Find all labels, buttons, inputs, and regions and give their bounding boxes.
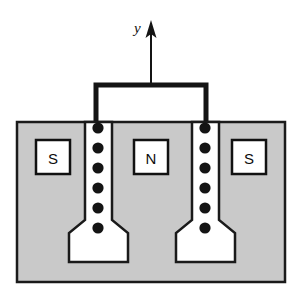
right-pole-label: S [244,150,254,167]
pole-label-left: S [36,140,70,174]
center-pole-label: N [146,150,157,167]
left-coil-dot-3 [92,162,103,173]
right-coil-dot-3 [199,162,210,173]
pole-label-center: N [134,140,168,174]
left-coil-dot-5 [92,202,103,213]
left-pole-label: S [48,150,58,167]
left-coil-dot-1 [92,122,103,133]
right-coil-dot-6 [199,222,210,233]
magnet-figure: y S N S [0,0,301,295]
right-coil-dot-4 [199,182,210,193]
y-axis-label: y [132,20,141,36]
right-coil-dot-5 [199,202,210,213]
left-coil-dot-6 [92,222,103,233]
magnet-diagram-svg: y S N S [0,0,301,295]
right-coil-dot-2 [199,142,210,153]
right-coil-dot-1 [199,122,210,133]
left-coil-dot-2 [92,142,103,153]
pole-label-right: S [232,140,266,174]
left-coil-dot-4 [92,182,103,193]
